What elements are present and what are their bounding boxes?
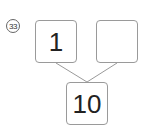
top-left-box: 1: [35, 20, 77, 63]
bottom-total-box: 10: [66, 82, 108, 125]
top-right-answer-box[interactable]: [96, 20, 138, 63]
